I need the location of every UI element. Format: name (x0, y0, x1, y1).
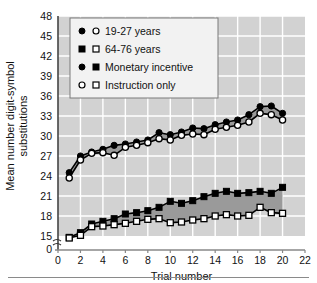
y-axis-title-line: substitutions (17, 95, 29, 157)
marker-filled-square (268, 190, 274, 196)
marker-filled-circle (111, 142, 117, 148)
marker-filled-circle (268, 103, 274, 109)
break-squiggle-top (53, 240, 61, 242)
marker-filled-circle (279, 110, 285, 116)
chart-svg: 1518212427303336394245480024681012141618… (0, 0, 317, 283)
marker-filled-square (156, 204, 162, 210)
y-tick-label: 36 (40, 90, 52, 102)
marker-open-square (145, 216, 151, 222)
break-squiggle-bottom (53, 244, 61, 246)
x-axis-title: Trial number (151, 270, 213, 282)
marker-open-square (280, 210, 286, 216)
x-tick-label: 8 (145, 254, 151, 266)
legend-label: 64-76 years (105, 43, 160, 55)
marker-open-square (111, 222, 117, 228)
x-tick-label: 4 (100, 254, 106, 266)
marker-open-square (89, 224, 95, 230)
legend-marker-filled-circle (79, 64, 85, 70)
legend-marker-filled-circle (79, 28, 85, 34)
y-tick-label: 24 (40, 170, 52, 182)
y-tick-label: 48 (40, 10, 52, 22)
legend-marker-open-circle (93, 28, 99, 34)
marker-open-circle (257, 110, 263, 116)
legend-label: Instruction only (105, 79, 176, 91)
marker-open-circle (246, 119, 252, 125)
marker-open-square (77, 232, 83, 238)
y-tick-label: 30 (40, 130, 52, 142)
legend-marker-open-square (93, 46, 99, 52)
marker-open-circle (235, 122, 241, 128)
x-tick-label: 2 (78, 254, 84, 266)
marker-open-square (100, 223, 106, 229)
y-axis-break-icon (53, 240, 61, 246)
marker-open-circle (100, 150, 106, 156)
legend-marker-open-circle (79, 82, 85, 88)
legend-label: 19-27 years (105, 25, 160, 37)
x-tick-label: 16 (232, 254, 244, 266)
marker-filled-circle (156, 130, 162, 136)
marker-filled-square (246, 190, 252, 196)
marker-filled-square (257, 188, 263, 194)
x-tick-label: 20 (277, 254, 289, 266)
y-tick-label: 33 (40, 110, 52, 122)
marker-open-square (257, 204, 263, 210)
y-tick-labels: 1518212427303336394245480 (40, 10, 52, 255)
marker-open-square (156, 216, 162, 222)
marker-filled-square (235, 190, 241, 196)
marker-filled-square (122, 211, 128, 217)
legend-label: Monetary incentive (105, 61, 193, 73)
marker-filled-square (201, 194, 207, 200)
x-tick-label: 18 (254, 254, 266, 266)
marker-open-circle (133, 142, 139, 148)
x-tick-labels: 0246810121416182022 (55, 250, 311, 266)
marker-open-circle (212, 126, 218, 132)
marker-open-circle (178, 132, 184, 138)
marker-open-square (201, 216, 207, 222)
marker-open-square (223, 212, 229, 218)
y-tick-label: 18 (40, 210, 52, 222)
marker-filled-square (134, 210, 140, 216)
y-axis-title-line: Mean number digit-symbol (4, 61, 16, 191)
marker-open-square (190, 217, 196, 223)
legend-marker-open-square (93, 82, 99, 88)
marker-open-circle (111, 152, 117, 158)
x-tick-label: 6 (122, 254, 128, 266)
marker-open-square (235, 213, 241, 219)
y-tick-label: 39 (40, 70, 52, 82)
marker-open-circle (223, 124, 229, 130)
y-tick-label: 21 (40, 190, 52, 202)
marker-open-square (66, 235, 72, 241)
y-tick-label: 15 (40, 230, 52, 242)
y-tick-label: 42 (40, 50, 52, 62)
marker-filled-square (145, 208, 151, 214)
marker-filled-square (190, 198, 196, 204)
x-tick-label: 22 (299, 254, 311, 266)
marker-filled-square (167, 198, 173, 204)
marker-open-square (134, 218, 140, 224)
marker-open-square (179, 219, 185, 225)
marker-filled-square (111, 216, 117, 222)
marker-filled-circle (257, 104, 263, 110)
figure-bottom-rule (8, 277, 309, 278)
marker-open-circle (89, 150, 95, 156)
x-tick-label: 12 (187, 254, 199, 266)
legend-marker-filled-square (79, 46, 85, 52)
legend: 19-27 years64-76 yearsMonetary incentive… (70, 18, 218, 98)
marker-open-circle (279, 117, 285, 123)
marker-open-circle (122, 144, 128, 150)
marker-open-square (167, 220, 173, 226)
marker-filled-circle (190, 125, 196, 131)
marker-open-circle (201, 132, 207, 138)
marker-open-square (268, 210, 274, 216)
marker-open-circle (190, 131, 196, 137)
x-tick-label: 10 (164, 254, 176, 266)
marker-open-circle (156, 136, 162, 142)
marker-filled-square (280, 184, 286, 190)
marker-open-square (246, 212, 252, 218)
legend-marker-filled-square (93, 64, 99, 70)
digit-symbol-substitution-chart: 1518212427303336394245480024681012141618… (0, 0, 317, 283)
marker-open-circle (66, 175, 72, 181)
marker-open-square (122, 220, 128, 226)
marker-open-circle (145, 140, 151, 146)
y-tick-label: 27 (40, 150, 52, 162)
